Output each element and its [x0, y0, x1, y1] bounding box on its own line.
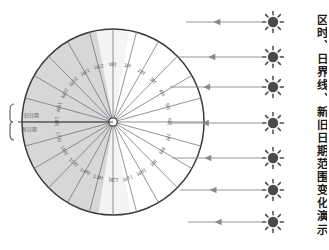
sun-icon — [263, 113, 284, 134]
sun-ray-arrowhead — [215, 219, 222, 225]
sun-icon — [263, 212, 284, 233]
sun-ray-arrowhead — [210, 187, 217, 193]
sun-icon — [263, 47, 284, 68]
timezone-label: 0时 — [109, 61, 117, 67]
bracket-shape — [10, 104, 14, 140]
date-range-label: 新日期 — [22, 126, 37, 133]
sun-ray-arrowhead — [208, 54, 215, 60]
timezone-label: 6时 — [167, 118, 173, 126]
sun-ray-arrowhead — [203, 84, 210, 90]
sun-ray-arrowhead — [213, 19, 220, 25]
sun-icon — [263, 148, 284, 169]
date-range-label: 旧日期 — [24, 112, 39, 119]
timezone-label: 12时 — [108, 177, 119, 183]
page-title: 区时、日界线、新旧日期范围变化演示学具 — [301, 14, 327, 236]
screenshot-root: 0时1时2时3时4时5时6时7时8时9时10时11时12时13时14时15时16… — [0, 0, 329, 250]
sun-ray-arrowhead — [204, 155, 211, 161]
sun-icon — [263, 12, 284, 33]
sun-icon — [263, 180, 284, 201]
timezone-demonstration-diagram: 0时1时2时3时4时5时6时7时8时9时10时11时12时13时14时15时16… — [0, 0, 329, 250]
sun-icon — [263, 77, 284, 98]
